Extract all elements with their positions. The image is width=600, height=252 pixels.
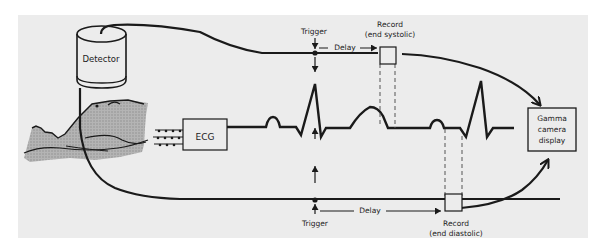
gamma-camera-display: Gamma camera display	[528, 108, 576, 151]
record-systolic-line2: (end systolic)	[365, 30, 416, 39]
ecg-label: ECG	[196, 132, 215, 142]
ecg-box: ECG	[183, 119, 227, 150]
ecg-waveform	[227, 81, 514, 137]
trigger-bottom: Trigger	[301, 197, 329, 228]
ecg-leads	[153, 130, 183, 147]
trigger-top: Trigger	[300, 27, 328, 72]
trigger-bottom-label: Trigger	[301, 219, 329, 228]
gamma-line1: Gamma	[537, 114, 567, 123]
gamma-line3: display	[539, 136, 566, 145]
detector: Detector	[77, 26, 126, 88]
signal-cables	[80, 25, 560, 208]
record-diastolic-line1: Record	[443, 219, 469, 228]
timing-dashed-lines	[380, 64, 462, 196]
delay-top-label: Delay	[334, 43, 356, 52]
delay-top: Delay	[319, 43, 377, 52]
delay-bottom-label: Delay	[359, 206, 381, 215]
gamma-line2: camera	[538, 125, 566, 134]
record-diastolic: Record (end diastolic)	[429, 194, 483, 238]
record-systolic-line1: Record	[377, 20, 403, 29]
detector-label: Detector	[82, 54, 120, 64]
trigger-top-label: Trigger	[300, 27, 328, 36]
record-diastolic-line2: (end diastolic)	[429, 229, 483, 238]
record-systolic: Record (end systolic)	[365, 20, 416, 64]
diagram-canvas: Detector ECG Trigger Delay Record (e	[0, 0, 600, 252]
delay-bottom: Delay	[320, 206, 381, 215]
